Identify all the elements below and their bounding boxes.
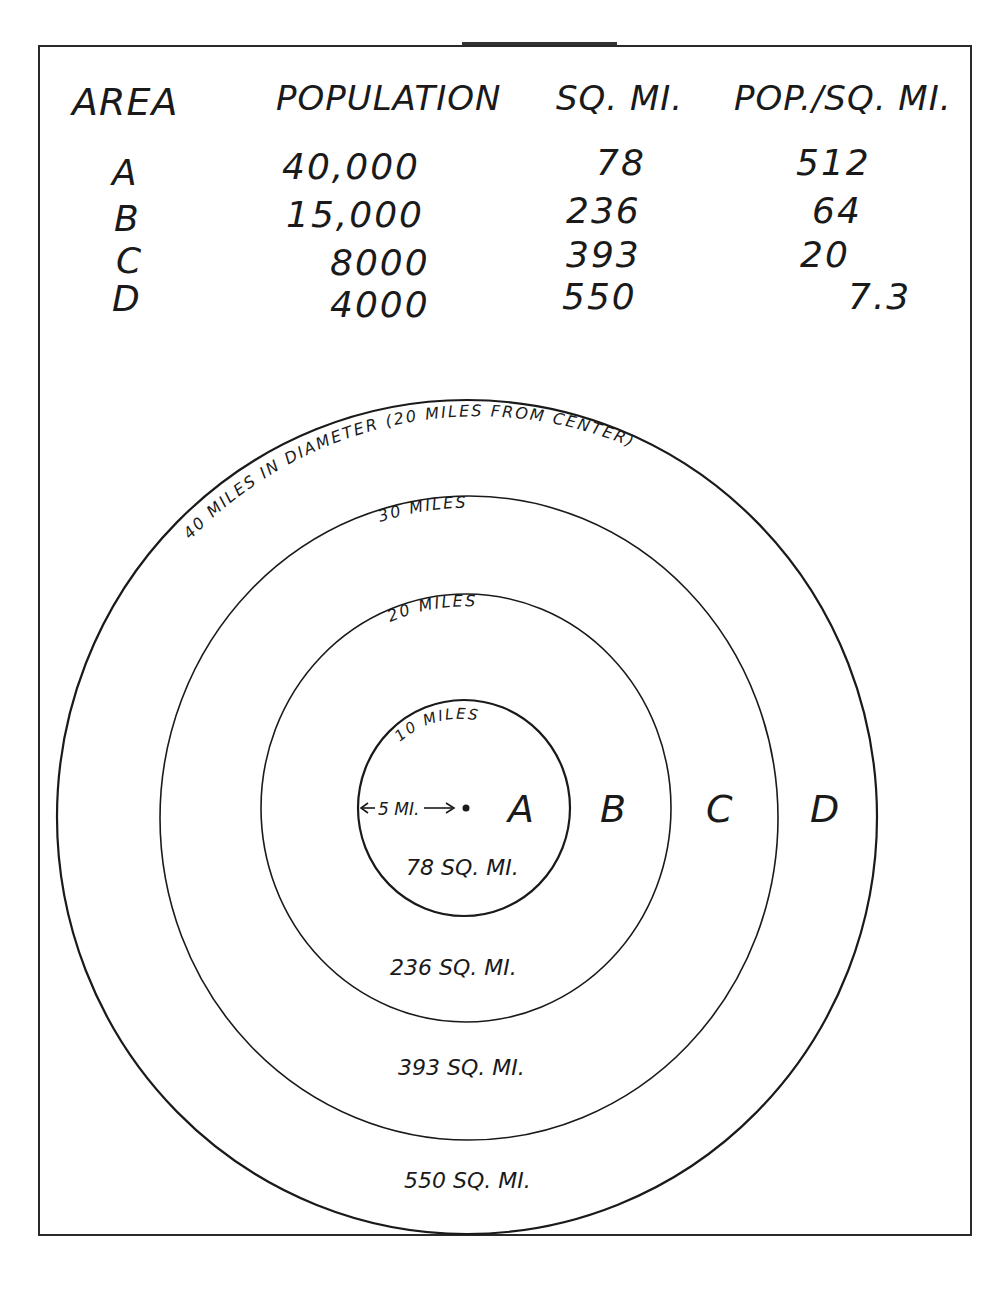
radius-label: 5 MI. — [378, 799, 419, 819]
ring-30-label: 30 MILES — [376, 493, 468, 526]
ring-10-label: 10 MILES — [391, 705, 481, 745]
zone-b-letter: B — [600, 787, 626, 831]
zone-b-area: 236 SQ. MI. — [390, 955, 517, 980]
center-point — [463, 805, 470, 812]
outer-ring-label: 40 MILES IN DIAMETER (20 MILES FROM CENT… — [179, 401, 638, 543]
zone-a-letter: A — [505, 787, 534, 831]
ring-20-label: 20 MILES — [384, 591, 477, 625]
zone-d-letter: D — [810, 787, 839, 831]
ring-40-miles — [57, 400, 877, 1234]
zone-c-area: 393 SQ. MI. — [398, 1055, 525, 1080]
zone-c-letter: C — [706, 787, 733, 831]
concentric-zones-diagram: 40 MILES IN DIAMETER (20 MILES FROM CENT… — [0, 0, 1004, 1298]
zone-d-area: 550 SQ. MI. — [404, 1168, 531, 1193]
zone-a-area: 78 SQ. MI. — [406, 855, 519, 880]
